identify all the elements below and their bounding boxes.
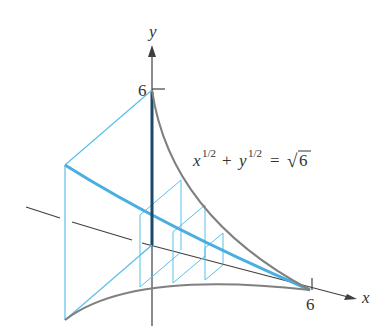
boundary-curve-top bbox=[152, 90, 310, 290]
x-axis-label: x bbox=[361, 288, 370, 307]
solid-figure: y 6 x 6 x 1/2 + y 1/2 = √ 6 bbox=[0, 0, 392, 331]
x-axis bbox=[26, 207, 357, 300]
svg-text:√: √ bbox=[287, 150, 298, 171]
y-axis-label: y bbox=[147, 22, 157, 41]
svg-text:6: 6 bbox=[299, 151, 308, 170]
svg-text:+: + bbox=[222, 151, 232, 170]
svg-text:1/2: 1/2 bbox=[248, 147, 262, 159]
svg-text:1/2: 1/2 bbox=[202, 147, 216, 159]
y-axis-arrow-icon bbox=[148, 45, 156, 57]
svg-text:x: x bbox=[192, 151, 201, 170]
equation-label: x 1/2 + y 1/2 = √ 6 bbox=[192, 147, 311, 171]
outer-cross-section bbox=[65, 90, 152, 320]
svg-text:y: y bbox=[237, 151, 247, 170]
boundary-curve-bottom bbox=[65, 284, 310, 320]
x-tick-label: 6 bbox=[306, 295, 315, 314]
y-tick-label: 6 bbox=[138, 81, 147, 100]
x-axis-arrow-icon bbox=[344, 294, 357, 300]
svg-text:=: = bbox=[270, 151, 280, 170]
